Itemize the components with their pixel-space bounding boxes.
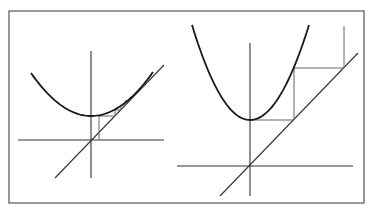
left-identity-line bbox=[55, 65, 164, 178]
left-parabola-curve bbox=[31, 72, 153, 116]
right-panel-large-c bbox=[177, 25, 358, 196]
right-cobweb-path bbox=[250, 26, 344, 120]
cobweb-diagram bbox=[0, 0, 371, 212]
left-panel-small-c bbox=[18, 51, 164, 178]
right-identity-line bbox=[220, 53, 358, 196]
